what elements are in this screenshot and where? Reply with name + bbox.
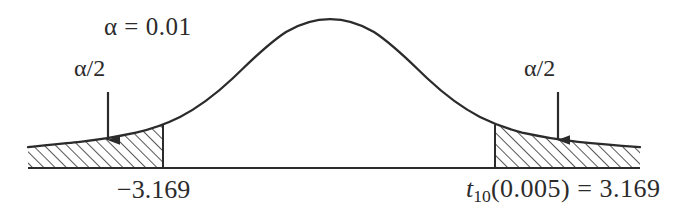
degrees-of-freedom-subscript: 10 (473, 186, 491, 206)
t-distribution-figure: α = 0.01 α/2 α/2 −3.169 t10(0.005) = 3.1… (0, 0, 673, 214)
alpha-total-label: α = 0.01 (104, 14, 191, 39)
alpha-half-right-label: α/2 (524, 56, 555, 80)
critical-value-left-label: −3.169 (117, 177, 190, 203)
critical-value-right-expression: (0.005) = 3.169 (491, 174, 660, 203)
alpha-half-left-label: α/2 (74, 56, 105, 80)
critical-value-right-label: t10(0.005) = 3.169 (466, 176, 660, 206)
